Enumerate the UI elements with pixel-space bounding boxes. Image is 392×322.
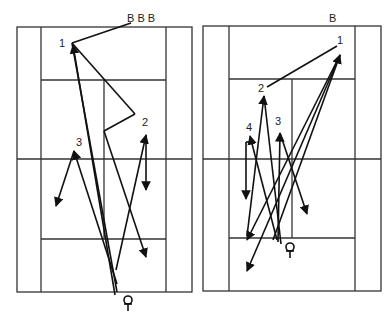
left-court: B B B 1 2 3 (17, 12, 192, 311)
shot-line (104, 114, 135, 131)
shot-arrow-3 (278, 133, 280, 242)
shot-arrow (280, 133, 307, 214)
shot-label-3: 3 (275, 115, 281, 127)
shot-label-1: 1 (59, 37, 65, 49)
shot-label-2: 2 (142, 116, 148, 128)
shot-label-1: 1 (337, 34, 343, 46)
player-icon (286, 243, 294, 258)
player-icon (124, 296, 132, 311)
shot-arrow (104, 131, 146, 257)
shot-arrow-2 (247, 96, 264, 236)
shot-label-4: 4 (246, 121, 252, 133)
shot-label-3: 3 (76, 136, 82, 148)
left-court-top-label: B B B (127, 12, 155, 24)
shot-line (72, 23, 131, 43)
shot-label-2: 2 (258, 82, 264, 94)
shot-arrow-2 (116, 135, 146, 270)
right-court-top-label: B (329, 12, 336, 24)
diagram-canvas: B B B 1 2 3 B 1 2 (0, 0, 392, 322)
right-court: B 1 2 3 4 (203, 12, 381, 291)
